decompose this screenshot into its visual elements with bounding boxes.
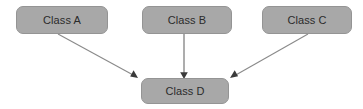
node-class-a[interactable]: Class A	[16, 6, 108, 34]
node-class-c[interactable]: Class C	[262, 6, 352, 34]
diagram-canvas: Class A Class B Class C Class D	[0, 0, 363, 109]
node-class-a-label: Class A	[43, 14, 81, 25]
node-class-c-label: Class C	[287, 14, 326, 25]
edge-class-a-to-class-d	[58, 34, 138, 78]
node-class-b-label: Class B	[168, 14, 207, 25]
node-class-d[interactable]: Class D	[141, 78, 229, 104]
node-class-b[interactable]: Class B	[142, 6, 232, 34]
edge-line-a-d	[58, 34, 135, 76]
arrowhead-c-d	[230, 70, 238, 78]
edge-class-c-to-class-d	[230, 34, 308, 78]
node-class-d-label: Class D	[165, 85, 204, 96]
edge-class-b-to-class-d	[180, 34, 188, 79]
edge-line-c-d	[234, 34, 308, 76]
arrowhead-a-d	[130, 70, 138, 78]
